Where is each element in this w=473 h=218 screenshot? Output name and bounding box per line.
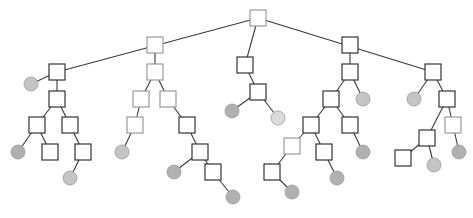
- tree-leaf-circle: [167, 165, 181, 179]
- tree-node-square: [237, 57, 253, 73]
- tree-node-square: [445, 117, 461, 133]
- tree-node-square: [147, 64, 163, 80]
- tree-node-square: [439, 91, 455, 107]
- tree-node-square: [205, 164, 221, 180]
- tree-leaf-circle: [427, 158, 441, 172]
- tree-leaf-circle: [356, 92, 370, 106]
- tree-node-square: [342, 117, 358, 133]
- tree-nodes: [11, 10, 466, 204]
- tree-node-square: [42, 144, 58, 160]
- tree-node-square: [147, 37, 163, 53]
- tree-node-square: [303, 117, 319, 133]
- tree-leaf-circle: [226, 190, 240, 204]
- tree-leaf-circle: [11, 145, 25, 159]
- tree-node-square: [127, 117, 143, 133]
- tree-leaf-circle: [24, 77, 38, 91]
- tree-node-square: [49, 64, 65, 80]
- tree-node-square: [395, 150, 411, 166]
- tree-node-square: [133, 91, 149, 107]
- tree-node-square: [75, 144, 91, 160]
- tree-leaf-circle: [330, 171, 344, 185]
- tree-node-square: [316, 144, 332, 160]
- tree-node-square: [342, 64, 358, 80]
- tree-node-square: [62, 117, 78, 133]
- tree-node-square: [160, 91, 176, 107]
- tree-node-square: [323, 91, 339, 107]
- tree-node-square: [284, 138, 300, 154]
- tree-leaf-circle: [115, 145, 129, 159]
- tree-node-square: [250, 10, 266, 26]
- tree-leaf-circle: [356, 145, 370, 159]
- tree-leaf-circle: [225, 104, 239, 118]
- tree-leaf-circle: [271, 111, 285, 125]
- tree-node-square: [49, 91, 65, 107]
- tree-node-square: [425, 64, 441, 80]
- tree-node-square: [419, 130, 435, 146]
- tree-leaf-circle: [285, 185, 299, 199]
- tree-node-square: [342, 37, 358, 53]
- tree-node-square: [264, 164, 280, 180]
- tree-node-square: [192, 144, 208, 160]
- tree-leaf-circle: [63, 171, 77, 185]
- tree-node-square: [250, 84, 266, 100]
- tree-leaf-circle: [407, 92, 421, 106]
- tree-node-square: [179, 117, 195, 133]
- tree-diagram: [0, 0, 473, 218]
- tree-leaf-circle: [452, 145, 466, 159]
- tree-node-square: [29, 117, 45, 133]
- tree-svg: [0, 0, 473, 218]
